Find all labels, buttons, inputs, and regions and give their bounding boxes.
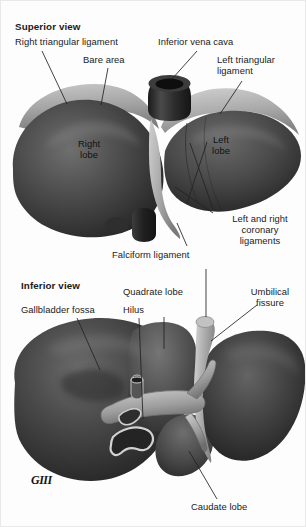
superior-view-heading: Superior view <box>15 21 81 32</box>
label-right-lobe: Right lobe <box>61 138 117 160</box>
umbilical-vessel-stub <box>196 317 214 328</box>
artist-signature: GIII <box>31 473 52 488</box>
label-falciform-ligament: Falciform ligament <box>112 249 189 260</box>
label-left-triangular-ligament: Left triangular ligament <box>217 54 275 76</box>
portal-stub-shape <box>132 208 156 242</box>
label-inferior-vena-cava: Inferior vena cava <box>158 36 233 47</box>
gallbladder-stub-shape <box>105 217 129 233</box>
label-umbilical-fissure: Umbilical fissure <box>239 286 301 308</box>
liver-illustration <box>1 1 306 527</box>
label-right-triangular-ligament: Right triangular ligament <box>15 36 118 47</box>
label-gallbladder-fossa: Gallbladder fossa <box>21 304 95 315</box>
label-hilus: Hilus <box>123 304 144 315</box>
label-left-lobe: Left lobe <box>201 134 241 156</box>
label-bare-area: Bare area <box>83 54 125 65</box>
label-coronary-ligaments: Left and right coronary ligaments <box>216 213 304 247</box>
inferior-view-liver <box>14 317 305 482</box>
inferior-view-heading: Inferior view <box>21 280 80 291</box>
label-quadrate-lobe: Quadrate lobe <box>123 286 183 297</box>
inferior-vena-cava-shape <box>148 75 191 121</box>
figure-canvas: Superior view Right triangular ligament … <box>0 0 306 527</box>
leader-inferior-vena-cava <box>172 51 197 79</box>
label-caudate-lobe: Caudate lobe <box>191 501 247 512</box>
